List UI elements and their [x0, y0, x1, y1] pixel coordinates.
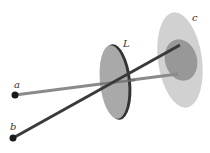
label-a: a — [14, 80, 20, 90]
label-lens: L — [123, 39, 130, 49]
optics-diagram: a b L c — [0, 0, 210, 153]
diagram-graphic — [0, 0, 210, 153]
point-b — [10, 135, 17, 142]
point-a — [12, 92, 19, 99]
label-b: b — [10, 122, 16, 132]
label-screen: c — [192, 13, 198, 23]
